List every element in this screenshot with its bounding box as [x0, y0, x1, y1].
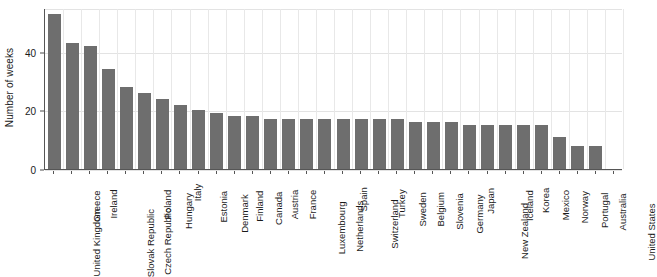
- bar: [300, 119, 313, 169]
- x-axis-tick-mark: [71, 171, 72, 174]
- bar: [48, 14, 61, 169]
- y-axis-tick-label: 20: [25, 106, 36, 117]
- x-axis-tick-mark: [378, 171, 379, 174]
- x-axis-tick-mark: [53, 171, 54, 174]
- bar: [264, 119, 277, 169]
- x-axis-tick-label: Portugal: [599, 193, 610, 228]
- x-axis-tick-label: Denmark: [239, 194, 250, 233]
- x-axis-tick-label: Luxembourg: [336, 201, 347, 254]
- x-axis-tick-label: Norway: [579, 191, 590, 223]
- y-axis-title: Number of weeks: [0, 0, 20, 175]
- x-axis-tick-mark: [306, 171, 307, 174]
- gridline-vertical: [623, 9, 624, 169]
- x-axis-tick-label: Japan: [485, 188, 496, 214]
- x-axis-tick-mark: [613, 171, 614, 174]
- x-axis-tick-mark: [288, 171, 289, 174]
- x-axis-tick-mark: [179, 171, 180, 174]
- bar: [102, 69, 115, 169]
- x-axis-tick-mark: [161, 171, 162, 174]
- bar: [409, 122, 422, 169]
- x-axis-tick-mark: [89, 171, 90, 174]
- x-axis-tick-mark: [450, 171, 451, 174]
- bar: [445, 122, 458, 169]
- x-axis-tick-mark: [487, 171, 488, 174]
- bar: [427, 122, 440, 169]
- plot-area: [44, 9, 622, 170]
- y-axis-tick-labels: 02040: [18, 0, 40, 175]
- x-axis-tick-label: Germany: [474, 195, 485, 234]
- bar: [120, 87, 133, 169]
- bar: [337, 119, 350, 169]
- x-axis-tick-mark: [143, 171, 144, 174]
- x-axis-tick-label: Mexico: [560, 190, 571, 220]
- y-axis-title-text: Number of weeks: [5, 48, 16, 127]
- bar: [373, 119, 386, 169]
- bar: [517, 125, 530, 169]
- x-axis-tick-label: Poland: [162, 190, 173, 220]
- bar: [481, 125, 494, 169]
- x-axis-tick-mark: [577, 171, 578, 174]
- x-axis-tick-label: Spain: [358, 187, 369, 211]
- x-axis-tick-label: Finland: [253, 191, 264, 222]
- x-axis-tick-label: Turkey: [397, 189, 408, 218]
- bar: [246, 116, 259, 169]
- bar: [391, 119, 404, 169]
- bar: [138, 93, 151, 169]
- bar: [192, 110, 205, 169]
- x-axis-tick-label: Estonia: [217, 191, 228, 223]
- x-axis-tick-mark: [523, 171, 524, 174]
- bar: [589, 146, 602, 169]
- y-axis-tick-label: 0: [30, 165, 36, 176]
- bar: [318, 119, 331, 169]
- bar: [571, 146, 584, 169]
- x-axis-tick-mark: [198, 171, 199, 174]
- x-axis-tick-label: Slovak Republic: [145, 209, 156, 277]
- x-axis-tick-label: Greece: [91, 191, 102, 222]
- x-axis-tick-labels: United KingdomGreeceIrelandSlovak Republ…: [44, 171, 622, 265]
- y-axis-tick-label: 40: [25, 47, 36, 58]
- x-axis-tick-label: Australia: [617, 193, 628, 230]
- bar: [84, 46, 97, 169]
- x-axis-tick-label: Austria: [289, 190, 300, 220]
- x-axis-tick-mark: [360, 171, 361, 174]
- bar: [174, 105, 187, 169]
- x-axis-tick-mark: [559, 171, 560, 174]
- y-axis-tick-mark: [40, 52, 44, 53]
- x-axis-tick-mark: [505, 171, 506, 174]
- bars-layer: [45, 9, 622, 169]
- y-axis-tick-mark: [40, 170, 44, 171]
- x-axis-tick-label: Canada: [272, 192, 283, 225]
- x-axis-tick-mark: [252, 171, 253, 174]
- x-axis-tick-label: Iceland: [524, 190, 535, 221]
- y-axis-tick-mark: [40, 111, 44, 112]
- bar: [156, 99, 169, 169]
- bar: [210, 113, 223, 169]
- x-axis-tick-mark: [396, 171, 397, 174]
- x-axis-tick-mark: [414, 171, 415, 174]
- x-axis-tick-mark: [324, 171, 325, 174]
- x-axis-tick-mark: [595, 171, 596, 174]
- bar: [463, 125, 476, 169]
- bar: [228, 116, 241, 169]
- bar: [553, 137, 566, 169]
- x-axis-tick-label: Korea: [539, 188, 550, 213]
- x-axis-tick-mark: [541, 171, 542, 174]
- bar: [535, 125, 548, 169]
- x-axis-tick-mark: [342, 171, 343, 174]
- bar: [355, 119, 368, 169]
- x-axis-tick-mark: [125, 171, 126, 174]
- x-axis-tick-label: Italy: [192, 184, 203, 201]
- x-axis-tick-mark: [432, 171, 433, 174]
- x-axis-tick-mark: [107, 171, 108, 174]
- x-axis-tick-label: Belgium: [435, 192, 446, 226]
- x-axis-tick-mark: [468, 171, 469, 174]
- x-axis-tick-label: Slovenia: [455, 193, 466, 229]
- bar: [499, 125, 512, 169]
- bar: [66, 43, 79, 169]
- x-axis-tick-label: Ireland: [108, 190, 119, 219]
- bar: [282, 119, 295, 169]
- x-axis-tick-label: United States: [645, 204, 656, 261]
- x-axis-tick-mark: [270, 171, 271, 174]
- x-axis-tick-mark: [216, 171, 217, 174]
